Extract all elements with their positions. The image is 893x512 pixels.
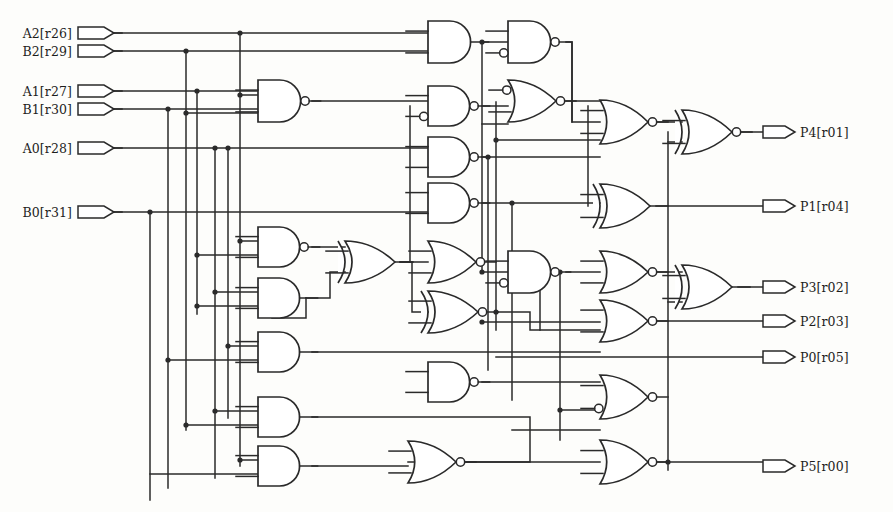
output-port-p2[interactable]: P2[r03] <box>763 314 849 329</box>
gate-body <box>428 137 470 177</box>
gate-body <box>345 241 395 283</box>
output-label: P0[r05] <box>800 350 849 365</box>
xor-back-arc <box>675 110 682 154</box>
output-inversion-bubble <box>478 308 486 316</box>
output-inversion-bubble <box>470 199 478 207</box>
output-inversion-bubble <box>648 317 656 325</box>
gate-nand-g7[interactable] <box>406 183 490 223</box>
gate-body <box>682 265 732 309</box>
gate-body <box>428 362 470 402</box>
output-label: P5[r00] <box>800 459 849 474</box>
gate-xnor-g12[interactable] <box>409 291 498 333</box>
logic-schematic: A2[r26]B2[r29]A1[r27]B1[r30]A0[r28]B0[r3… <box>0 0 893 512</box>
gate-nor-g5[interactable] <box>489 80 576 122</box>
gate-body <box>508 251 551 293</box>
output-label: P1[r04] <box>800 199 849 214</box>
output-port-p0[interactable]: P0[r05] <box>763 350 849 365</box>
output-inversion-bubble <box>476 258 484 266</box>
gate-body <box>600 300 648 342</box>
output-inversion-bubble <box>470 102 478 110</box>
gate-body <box>428 241 476 283</box>
output-pin-marker <box>763 351 795 363</box>
gate-body <box>428 86 470 126</box>
gate-body <box>428 291 478 333</box>
input-pin-marker <box>78 45 114 57</box>
input-inversion-bubble <box>500 279 508 287</box>
input-label: B2[r29] <box>23 44 72 59</box>
gate-body <box>428 183 470 223</box>
gate-body <box>508 80 556 122</box>
schematic-canvas: A2[r26]B2[r29]A1[r27]B1[r30]A0[r28]B0[r3… <box>0 0 893 512</box>
gate-xor-g21[interactable] <box>581 184 668 228</box>
output-port-p1[interactable]: P1[r04] <box>763 199 849 214</box>
input-inversion-bubble <box>500 49 508 57</box>
gate-body <box>258 397 300 437</box>
input-inversion-bubble <box>420 112 428 120</box>
output-inversion-bubble <box>300 243 308 251</box>
output-port-p4[interactable]: P4[r01] <box>763 125 849 140</box>
input-pin-marker <box>78 27 114 39</box>
input-port-b2[interactable]: B2[r29] <box>23 44 122 59</box>
input-label: A0[r28] <box>22 141 72 156</box>
input-inversion-bubble <box>503 86 511 94</box>
gate-body <box>428 21 471 63</box>
gate-nand-g4[interactable] <box>406 86 490 126</box>
output-pin-marker <box>763 126 795 138</box>
gate-body <box>258 446 300 486</box>
output-inversion-bubble <box>456 458 464 466</box>
gate-and-g14[interactable] <box>236 332 318 372</box>
input-label: A2[r26] <box>22 26 72 41</box>
xor-back-arc <box>593 184 600 228</box>
input-port-a1[interactable]: A1[r27] <box>22 84 122 99</box>
bus-stubs <box>150 95 258 474</box>
gate-nor-g24[interactable] <box>581 300 668 342</box>
gate-body <box>600 251 648 293</box>
gate-body <box>600 100 648 144</box>
gate-nor-g18[interactable] <box>389 441 476 483</box>
gate-body <box>258 278 300 318</box>
output-inversion-bubble <box>470 378 478 386</box>
output-inversion-bubble <box>470 153 478 161</box>
gate-body <box>258 227 300 267</box>
output-label: P4[r01] <box>800 125 849 140</box>
output-label: P3[r02] <box>800 280 849 295</box>
gate-xor-g10[interactable] <box>326 241 413 283</box>
input-pin-marker <box>78 206 114 218</box>
input-port-b0[interactable]: B0[r31] <box>23 205 122 220</box>
gate-body <box>408 441 456 483</box>
output-pin-marker <box>763 460 795 472</box>
input-port-b1[interactable]: B1[r30] <box>23 102 122 117</box>
output-port-p5[interactable]: P5[r00] <box>763 459 849 474</box>
xor-back-arc <box>421 291 428 333</box>
input-pin-marker <box>78 103 114 115</box>
gate-body <box>258 332 300 372</box>
output-label: P2[r03] <box>800 314 849 329</box>
gate-and-g16[interactable] <box>236 397 318 437</box>
output-pin-marker <box>763 315 795 327</box>
output-inversion-bubble <box>556 97 564 105</box>
output-pin-marker <box>763 200 795 212</box>
gate-body <box>600 184 650 228</box>
input-pin-marker <box>78 85 114 97</box>
input-label: A1[r27] <box>22 84 72 99</box>
gate-nand-g15[interactable] <box>406 362 490 402</box>
gate-and-g17[interactable] <box>236 446 318 486</box>
gate-and-g1[interactable] <box>406 21 489 63</box>
gate-nand-g3[interactable] <box>236 80 321 122</box>
input-port-a0[interactable]: A0[r28] <box>22 141 122 156</box>
gate-xor-g23[interactable] <box>663 265 750 309</box>
output-inversion-bubble <box>648 393 656 401</box>
gate-nand-g8[interactable] <box>236 227 320 267</box>
output-inversion-bubble <box>648 268 656 276</box>
output-port-p3[interactable]: P3[r02] <box>763 280 849 295</box>
input-port-a2[interactable]: A2[r26] <box>22 26 122 41</box>
gate-body <box>600 375 648 419</box>
gate-nand-g6[interactable] <box>406 137 490 177</box>
output-inversion-bubble <box>551 38 559 46</box>
output-inversion-bubble <box>648 118 656 126</box>
vertical-bus <box>150 33 240 500</box>
gate-body <box>508 21 551 63</box>
gate-body <box>600 440 648 484</box>
output-inversion-bubble <box>648 458 656 466</box>
gate-xnor-g20[interactable] <box>663 110 752 154</box>
